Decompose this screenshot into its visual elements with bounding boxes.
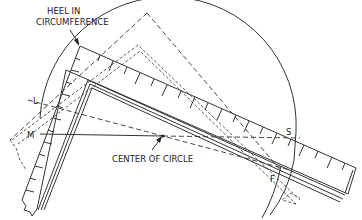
- center-label: CENTER OF CIRCLE: [112, 154, 193, 164]
- dashed-construction-lines: [10, 13, 300, 172]
- center-of-circle-diagram: HEEL IN CIRCUMFERENCE CENTER OF CIRCLE L…: [0, 0, 362, 220]
- framing-square-inner: [38, 80, 345, 210]
- point-l-label: L: [33, 96, 38, 106]
- point-f-label: F: [270, 174, 275, 184]
- center-point: [161, 134, 164, 137]
- heel-label-line2: CIRCUMFERENCE: [36, 17, 109, 27]
- heel-label-line1: HEEL IN: [47, 6, 80, 16]
- diameter-line-ms: [40, 134, 163, 136]
- center-leader-arrow: [152, 136, 162, 150]
- circle-arc: [40, 0, 296, 215]
- point-m-label: M: [27, 130, 34, 140]
- point-s-label: S: [286, 127, 291, 137]
